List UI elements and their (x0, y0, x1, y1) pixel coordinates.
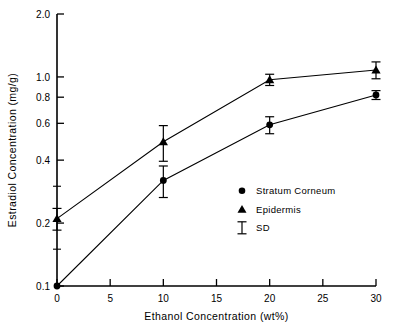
legend-label: Epidermis (256, 204, 301, 215)
data-point-circle (373, 92, 380, 99)
y-tick-label: 0.6 (36, 118, 50, 129)
y-tick-label: 0.2 (36, 218, 50, 229)
series-line (57, 70, 376, 219)
y-tick-label: 0.8 (36, 92, 50, 103)
x-axis-ticks (57, 279, 376, 286)
data-point-triangle (159, 137, 168, 145)
data-series-layer (52, 62, 380, 289)
x-tick-label: 30 (370, 293, 382, 304)
legend-triangle-icon (237, 205, 246, 213)
x-tick-label: 20 (264, 293, 276, 304)
x-axis-title: Ethanol Concentration (wt%) (144, 310, 288, 322)
data-point-triangle (52, 214, 61, 222)
y-tick-label: 2.0 (36, 9, 50, 20)
chart-legend: Stratum CorneumEpidermisSD (237, 185, 335, 234)
x-tick-label: 5 (107, 293, 113, 304)
data-point-triangle (371, 66, 380, 74)
x-tick-label: 15 (211, 293, 223, 304)
data-point-circle (266, 121, 273, 128)
x-tick-label: 25 (317, 293, 329, 304)
legend-label: Stratum Corneum (256, 185, 335, 196)
y-tick-label: 0.1 (36, 281, 50, 292)
y-axis-title: Estradiol Concentration (mg/g) (6, 73, 18, 227)
x-tick-label: 0 (54, 293, 60, 304)
series-epidermis (52, 62, 380, 230)
legend-item: SD (238, 222, 270, 234)
data-point-circle (160, 177, 167, 184)
legend-errorbar-icon (238, 222, 247, 234)
legend-item: Stratum Corneum (239, 185, 336, 196)
legend-label: SD (256, 222, 270, 233)
x-tick-label: 10 (158, 293, 170, 304)
legend-item: Epidermis (237, 204, 300, 215)
y-tick-label: 0.4 (36, 155, 50, 166)
chart-canvas: 0.10.20.40.60.81.02.0 051015202530 Ethan… (0, 0, 397, 325)
x-axis-tick-labels: 051015202530 (54, 293, 382, 304)
y-axis-ticks (57, 14, 64, 286)
data-point-circle (54, 283, 61, 290)
y-axis-tick-labels: 0.10.20.40.60.81.02.0 (36, 9, 50, 292)
figure-container: 0.10.20.40.60.81.02.0 051015202530 Ethan… (0, 0, 397, 325)
legend-circle-icon (239, 188, 246, 195)
y-tick-label: 1.0 (36, 72, 50, 83)
